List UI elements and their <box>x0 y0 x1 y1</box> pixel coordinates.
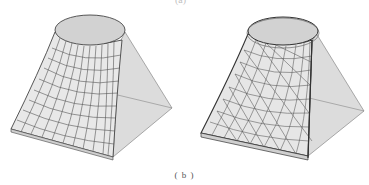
figure-caption: ( b ) <box>0 170 369 180</box>
figure-graphic <box>0 0 369 170</box>
triangle-mesh-surface <box>201 17 364 160</box>
quad-mesh-surface <box>11 15 172 160</box>
